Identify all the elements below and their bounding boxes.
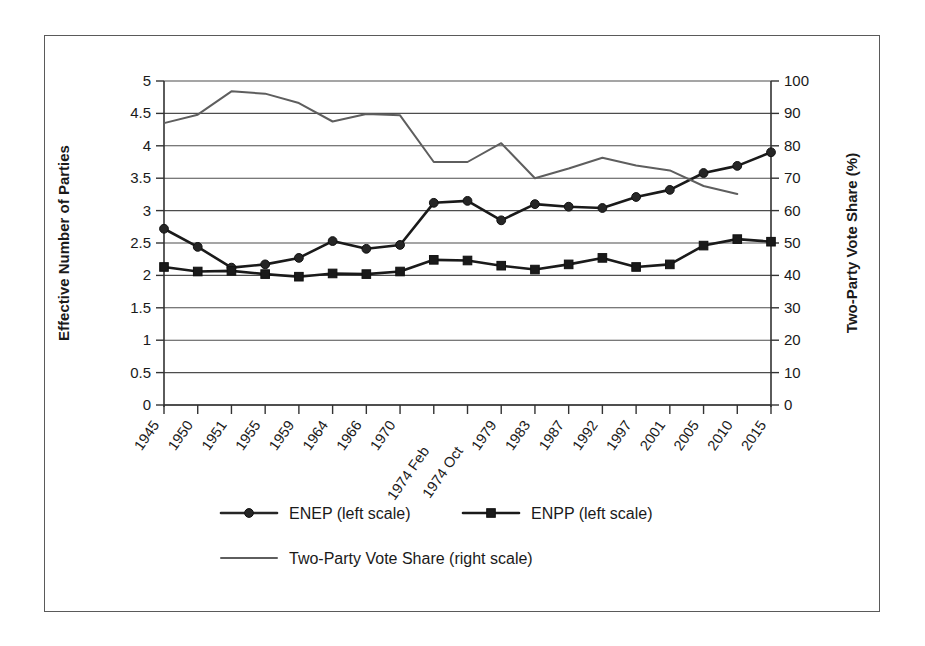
data-point-marker [294, 254, 303, 263]
legend: ENEP (left scale)ENPP (left scale)Two-Pa… [221, 505, 653, 567]
right-axis-tick-label: 70 [784, 169, 801, 186]
legend-label: Two-Party Vote Share (right scale) [289, 550, 533, 567]
data-point-marker [463, 196, 472, 205]
right-axis-tick-label: 90 [784, 104, 801, 121]
x-axis-tick-label: 1950 [165, 418, 197, 454]
x-axis-tick-label: 2005 [670, 418, 702, 454]
data-point-marker [767, 148, 776, 157]
data-point-marker [665, 185, 674, 194]
data-point-marker [160, 224, 169, 233]
data-point-marker [396, 241, 405, 250]
x-axis-tick-label: 2001 [637, 418, 669, 454]
left-axis-tick-label: 3.5 [130, 169, 151, 186]
left-axis-title: Effective Number of Parties [55, 145, 72, 341]
legend-label: ENEP (left scale) [289, 505, 411, 522]
left-axis-tick-label: 4 [143, 137, 151, 154]
left-axis-tick-label: 4.5 [130, 104, 151, 121]
right-axis-tick-label: 80 [784, 137, 801, 154]
legend-marker-square [487, 509, 496, 518]
data-point-marker [632, 263, 641, 272]
right-axis-tick-label: 0 [784, 396, 792, 413]
chart-canvas: 00.511.522.533.544.55Effective Number of… [45, 36, 881, 613]
data-point-marker [531, 265, 540, 274]
x-axis-tick-label: 1959 [266, 418, 298, 454]
right-axis-tick-label: 30 [784, 299, 801, 316]
x-axis-tick-label: 1997 [603, 418, 635, 454]
left-axis-tick-label: 2 [143, 266, 151, 283]
x-axis-tick-label: 2010 [704, 418, 736, 454]
left-axis-tick-label: 1 [143, 331, 151, 348]
series-1 [160, 148, 776, 272]
data-point-marker [193, 242, 202, 251]
data-point-marker [564, 202, 573, 211]
data-point-marker [328, 269, 337, 278]
data-point-marker [295, 272, 304, 281]
data-point-marker [632, 193, 641, 202]
x-axis-tick-label: 1970 [367, 418, 399, 454]
data-point-marker [699, 241, 708, 250]
right-axis-title: Two-Party Vote Share (%) [843, 153, 860, 333]
left-axis-tick-label: 1.5 [130, 299, 151, 316]
data-point-marker [227, 267, 236, 276]
x-axis-tick-label: 1964 [299, 418, 331, 454]
x-axis-tick-label: 1945 [131, 418, 163, 454]
x-axis-tick-label: 1966 [333, 418, 365, 454]
data-point-marker [733, 161, 742, 170]
data-point-marker [666, 260, 675, 269]
series-group [160, 91, 776, 281]
right-axis-tick-label: 60 [784, 202, 801, 219]
x-axis-tick-label: 1955 [232, 418, 264, 454]
right-axis-tick-label: 50 [784, 234, 801, 251]
legend-marker-circle [245, 509, 254, 518]
figure-frame: 00.511.522.533.544.55Effective Number of… [44, 35, 880, 612]
data-point-marker [328, 237, 337, 246]
right-axis: 0102030405060708090100Two-Party Vote Sha… [771, 72, 860, 413]
left-axis: 00.511.522.533.544.55Effective Number of… [55, 72, 164, 413]
x-axis: 194519501951195519591964196619701974 Feb… [131, 405, 771, 503]
data-point-marker [699, 169, 708, 178]
right-axis-tick-label: 20 [784, 331, 801, 348]
gridlines [164, 81, 771, 405]
x-axis-tick-label: 1979 [468, 418, 500, 454]
data-point-marker [564, 260, 573, 269]
right-axis-tick-label: 100 [784, 72, 809, 89]
right-axis-tick-label: 40 [784, 266, 801, 283]
data-point-marker [531, 200, 540, 209]
data-point-marker [598, 204, 607, 213]
data-point-marker [497, 216, 506, 225]
data-point-marker [497, 261, 506, 270]
left-axis-tick-label: 0.5 [130, 364, 151, 381]
data-point-marker [429, 256, 438, 265]
series-2 [160, 235, 776, 281]
x-axis-tick-label: 1983 [502, 418, 534, 454]
data-point-marker [193, 267, 202, 276]
series-line-circle [164, 152, 771, 267]
x-axis-tick-label: 1992 [569, 418, 601, 454]
left-axis-tick-label: 2.5 [130, 234, 151, 251]
data-point-marker [261, 270, 270, 279]
data-point-marker [429, 198, 438, 207]
legend-label: ENPP (left scale) [531, 505, 653, 522]
left-axis-tick-label: 0 [143, 396, 151, 413]
x-axis-tick-label: 2015 [738, 418, 770, 454]
x-axis-tick-label: 1987 [536, 418, 568, 454]
data-point-marker [598, 254, 607, 263]
data-point-marker [733, 235, 742, 244]
left-axis-tick-label: 5 [143, 72, 151, 89]
data-point-marker [362, 270, 371, 279]
data-point-marker [160, 263, 169, 272]
data-point-marker [463, 256, 472, 265]
data-point-marker [362, 244, 371, 253]
right-axis-tick-label: 10 [784, 364, 801, 381]
x-axis-tick-label: 1951 [198, 418, 230, 454]
left-axis-tick-label: 3 [143, 202, 151, 219]
data-point-marker [396, 267, 405, 276]
data-point-marker [261, 260, 270, 269]
data-point-marker [767, 237, 776, 246]
